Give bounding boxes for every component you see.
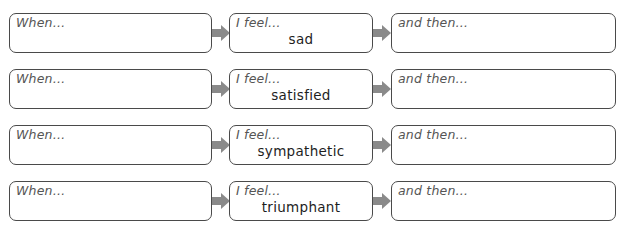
right-arrow-icon [212,24,230,42]
right-arrow-icon [373,80,391,98]
right-arrow-icon [212,192,230,210]
when-label: When… [16,183,65,198]
then-box[interactable]: and then… [391,13,616,53]
feel-box[interactable]: I feel… sympathetic [229,125,373,165]
when-label: When… [16,71,65,86]
emotion-row-4: When… I feel… triumphant and then… [0,181,627,221]
feel-label: I feel… [236,71,281,86]
when-box[interactable]: When… [9,13,212,53]
emotion-word: triumphant [230,199,372,215]
then-box[interactable]: and then… [391,181,616,221]
then-label: and then… [398,183,468,198]
feel-box[interactable]: I feel… satisfied [229,69,373,109]
emotion-word: sympathetic [230,143,372,159]
then-box[interactable]: and then… [391,125,616,165]
right-arrow-icon [373,24,391,42]
right-arrow-icon [373,192,391,210]
then-label: and then… [398,71,468,86]
when-box[interactable]: When… [9,181,212,221]
when-box[interactable]: When… [9,125,212,165]
then-box[interactable]: and then… [391,69,616,109]
when-box[interactable]: When… [9,69,212,109]
when-label: When… [16,127,65,142]
feel-label: I feel… [236,15,281,30]
feel-label: I feel… [236,183,281,198]
emotion-row-2: When… I feel… satisfied and then… [0,69,627,109]
feel-box[interactable]: I feel… sad [229,13,373,53]
when-label: When… [16,15,65,30]
feel-box[interactable]: I feel… triumphant [229,181,373,221]
right-arrow-icon [373,136,391,154]
emotion-word: sad [230,31,372,47]
right-arrow-icon [212,80,230,98]
feel-label: I feel… [236,127,281,142]
emotion-row-3: When… I feel… sympathetic and then… [0,125,627,165]
emotion-word: satisfied [230,87,372,103]
emotion-row-1: When… I feel… sad and then… [0,13,627,53]
right-arrow-icon [212,136,230,154]
then-label: and then… [398,127,468,142]
then-label: and then… [398,15,468,30]
